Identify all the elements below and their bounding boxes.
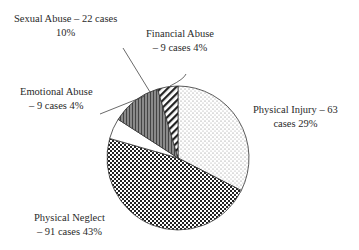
label-physical-injury: Physical Injury – 63 cases 29% — [253, 103, 338, 131]
pie-slices — [107, 86, 249, 230]
leader-line-financial-abuse — [170, 74, 186, 86]
label-physical-neglect: Physical Neglect – 91 cases 43% — [34, 211, 105, 239]
label-line: – 9 cases 4% — [20, 99, 93, 113]
label-line: Financial Abuse — [146, 27, 214, 41]
label-sexual-abuse: Sexual Abuse – 22 cases 10% — [14, 12, 117, 40]
label-emotional-abuse: Emotional Abuse – 9 cases 4% — [20, 85, 93, 113]
label-financial-abuse: Financial Abuse – 9 cases 4% — [146, 27, 214, 55]
label-line: cases 29% — [253, 117, 338, 131]
label-line: – 9 cases 4% — [146, 41, 214, 55]
label-line: Sexual Abuse – 22 cases — [14, 12, 117, 26]
label-line: Physical Injury – 63 — [253, 103, 338, 117]
label-line: – 91 cases 43% — [34, 225, 105, 239]
label-line: Physical Neglect — [34, 211, 105, 225]
label-line: 10% — [14, 26, 117, 40]
label-line: Emotional Abuse — [20, 85, 93, 99]
